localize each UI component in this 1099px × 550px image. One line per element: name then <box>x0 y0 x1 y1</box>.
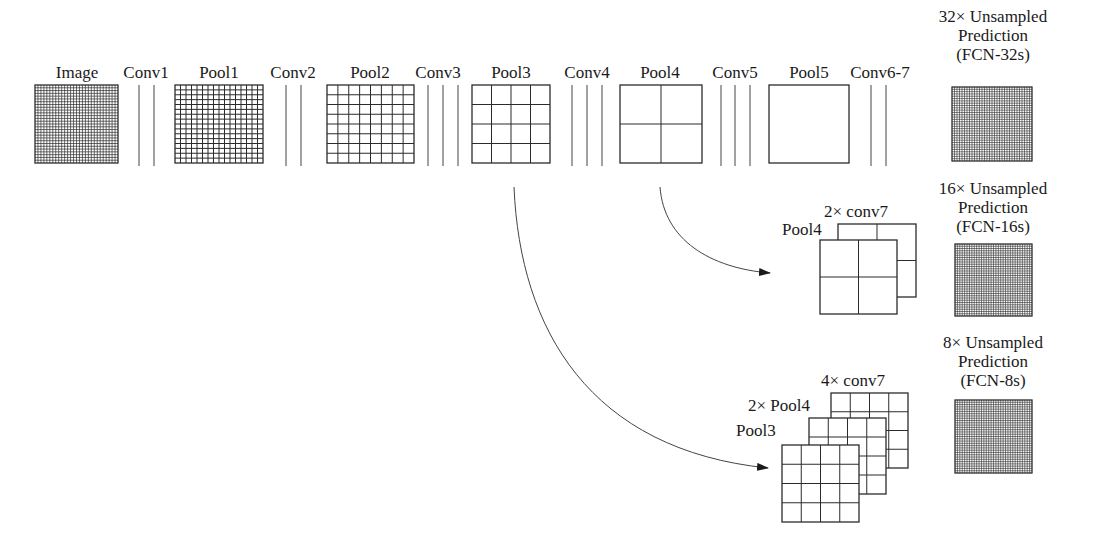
prediction-label-fcn8s-line1: 8× Unsampled <box>943 334 1043 352</box>
stage-label-conv2: Conv2 <box>270 64 315 82</box>
stage-label-conv5: Conv5 <box>712 64 757 82</box>
fusion8-label-pool3: Pool3 <box>736 422 776 440</box>
stage-pool5-feature-map <box>769 85 849 163</box>
prediction-map-fcn32s <box>952 87 1032 161</box>
stage-label-conv6-7: Conv6-7 <box>850 64 910 82</box>
fusion-16s-stack <box>820 224 916 314</box>
fusion16-label-2x-conv7: 2× conv7 <box>824 203 888 221</box>
stage-conv2-conv-lines <box>286 85 301 166</box>
fusion16-layer-1 <box>820 240 897 314</box>
prediction-label-fcn32s-line2: Prediction <box>958 27 1028 45</box>
stage-conv6-7-conv-lines <box>871 85 886 166</box>
stage-label-image: Image <box>56 64 98 82</box>
prediction-column <box>952 87 1032 473</box>
fusion16-label-pool4: Pool4 <box>782 221 822 239</box>
stage-label-conv3: Conv3 <box>415 64 460 82</box>
prediction-label-fcn16s-line2: Prediction <box>958 199 1028 217</box>
stage-label-pool3: Pool3 <box>491 64 531 82</box>
skip-arrows <box>514 187 770 468</box>
prediction-map-fcn8s <box>955 400 1032 473</box>
stage-conv5-conv-lines <box>721 85 750 166</box>
prediction-label-fcn16s-line3: (FCN-16s) <box>956 218 1030 236</box>
prediction-label-fcn32s-line1: 32× Unsampled <box>939 8 1047 26</box>
stage-label-pool4: Pool4 <box>640 64 680 82</box>
fusion8-label-2x-pool4: 2× Pool4 <box>748 397 810 415</box>
prediction-label-fcn32s-line3: (FCN-32s) <box>956 46 1030 64</box>
stage-label-pool1: Pool1 <box>199 64 239 82</box>
stage-pool4-feature-map <box>620 85 702 163</box>
stage-label-conv1: Conv1 <box>123 64 168 82</box>
stage-image-feature-map <box>35 85 118 163</box>
prediction-label-fcn8s-line3: (FCN-8s) <box>960 372 1025 390</box>
stage-pool2-feature-map <box>327 85 414 163</box>
skip-arrow-pool4 <box>660 187 770 273</box>
stage-label-conv4: Conv4 <box>564 64 609 82</box>
prediction-label-fcn16s-line1: 16× Unsampled <box>939 180 1047 198</box>
prediction-label-fcn8s-line2: Prediction <box>958 353 1028 371</box>
stage-conv1-conv-lines <box>139 85 154 166</box>
stage-conv3-conv-lines <box>428 85 458 166</box>
stage-label-pool5: Pool5 <box>789 64 829 82</box>
stage-label-pool2: Pool2 <box>350 64 390 82</box>
stage-pool3-feature-map <box>472 85 550 163</box>
skip-arrow-pool3 <box>514 187 768 468</box>
stage-pool1-feature-map <box>175 85 263 163</box>
fusion8-label-4x-conv7: 4× conv7 <box>821 372 885 390</box>
pipeline-row <box>35 85 886 166</box>
fcn-diagram <box>0 0 1099 550</box>
stage-conv4-conv-lines <box>572 85 602 166</box>
prediction-map-fcn16s <box>955 244 1032 316</box>
fusion8-layer-2 <box>782 445 859 522</box>
